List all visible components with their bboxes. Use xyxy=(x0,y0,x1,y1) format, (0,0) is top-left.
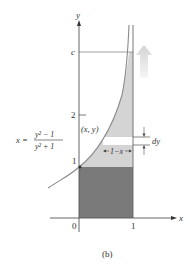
equation-lhs: x = xyxy=(15,135,28,145)
x-tick-1-label: 1 xyxy=(131,221,136,231)
equation-denominator: y² + 1 xyxy=(34,142,54,151)
strip-width-label: 1−x xyxy=(110,147,123,156)
strip-height-label: dy xyxy=(152,136,160,146)
y-axis-label: y xyxy=(75,10,80,20)
curve-y-intercept-dot xyxy=(79,166,82,169)
y-tick-2-label: 2 xyxy=(71,110,76,120)
x-axis-arrowhead xyxy=(171,216,177,220)
figure-caption: (b) xyxy=(102,249,113,259)
dy-strip xyxy=(103,137,133,145)
point-label: (x, y) xyxy=(81,124,99,134)
dark-square-region xyxy=(79,167,133,218)
equation-numerator: y² − 1 xyxy=(34,130,54,139)
c-tick-label: c xyxy=(71,47,75,57)
origin-label: 0 xyxy=(72,221,77,231)
x-axis-label: x xyxy=(178,213,183,223)
y-tick-1-label: 1 xyxy=(72,156,77,166)
up-arrow-icon xyxy=(136,45,152,78)
diagram: y x c 2 1 0 1 (x, y) 1−x dy x = y² − 1 y… xyxy=(0,0,190,271)
dy-arrowhead-up-icon xyxy=(143,145,146,149)
y-axis-arrowhead xyxy=(77,20,81,26)
dy-arrowhead-down-icon xyxy=(143,134,146,138)
